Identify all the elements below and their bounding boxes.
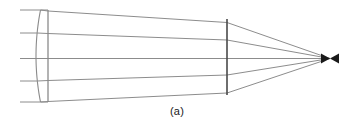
converging-ray-bundle (48, 11, 330, 102)
refracted-ray-ray-2-upper (48, 34, 227, 41)
plano-convex-lens (36, 10, 48, 102)
internal-ray-ray-4-lower (37, 81, 48, 82)
refracted-ray-ray-5-bottom (48, 93, 227, 102)
incident-ray-bundle (20, 10, 41, 102)
converging-ray-ray-2-upper (227, 40, 330, 59)
focal-point-caustic (321, 54, 339, 64)
internal-ray-ray-2-upper (37, 33, 48, 34)
refracted-ray-ray-4-lower (48, 75, 227, 81)
lens-convex-surface (36, 10, 41, 102)
converging-ray-ray-1-top (227, 23, 330, 59)
refracted-ray-ray-1-top (48, 11, 227, 23)
converging-ray-ray-4-lower (227, 59, 330, 76)
converging-ray-ray-5-bottom (227, 59, 330, 94)
optical-figure: (a) (0, 0, 354, 132)
caustic-left-wedge (321, 54, 330, 64)
figure-caption: (a) (0, 104, 354, 118)
caustic-right-wedge (330, 54, 339, 64)
